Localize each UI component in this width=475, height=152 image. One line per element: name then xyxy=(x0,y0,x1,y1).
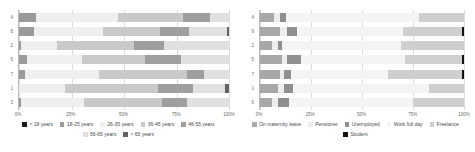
legend-swatch-icon xyxy=(123,132,128,137)
bar-segment xyxy=(19,55,27,64)
bar-segment xyxy=(162,98,187,107)
bar-segment xyxy=(158,84,194,93)
y-axis-tick-label: 4 xyxy=(0,13,16,22)
x-axis-tick-label: 50% xyxy=(119,110,128,119)
bar-segment xyxy=(164,41,229,50)
legend-swatch-icon xyxy=(430,122,435,127)
stacked-bar-row xyxy=(260,84,464,93)
x-axis-tick-label: 75% xyxy=(408,110,417,119)
legend-item[interactable]: Student xyxy=(343,130,367,139)
bar-segment xyxy=(403,27,462,36)
legend-label: Work full day xyxy=(394,120,423,129)
legend-label: 18-25 years xyxy=(67,120,93,129)
y-axis-tick-label: 8 xyxy=(0,27,16,36)
x-axis-right: 0%25%50%75%100% xyxy=(259,110,464,119)
bar-segment xyxy=(204,70,229,79)
legend-label: Pensioner xyxy=(315,120,338,129)
legend-item[interactable]: < 18 years xyxy=(22,120,53,129)
legend-item[interactable]: Freelance xyxy=(430,120,459,129)
bar-segment xyxy=(187,98,229,107)
bar-segment xyxy=(225,84,229,93)
y-axis-tick-label: 2 xyxy=(0,41,16,50)
bar-segment xyxy=(301,55,405,64)
y-axis-tick-label: 6 xyxy=(0,55,16,64)
legend-swatch-icon xyxy=(22,122,27,127)
bar-segment xyxy=(210,13,229,22)
legend-label: 36-45 years xyxy=(148,120,174,129)
legend-item[interactable]: Unemployed xyxy=(345,120,380,129)
y-axis-tick-label: 7 xyxy=(237,70,257,79)
bar-segment xyxy=(401,41,464,50)
legend-item[interactable]: On maternity leave xyxy=(252,120,301,129)
bar-segment xyxy=(160,27,189,36)
bar-segment xyxy=(181,55,229,64)
bar-segment xyxy=(36,13,118,22)
gridline xyxy=(229,10,230,110)
bar-segment xyxy=(193,84,225,93)
chart-panel-age-groups: 4 8 2 6 7 1 3 0%25%50%75%100% < 18 years… xyxy=(0,0,237,152)
bar-segment xyxy=(134,41,163,50)
y-axis-labels-right: 4 9 2 5 7 1 6 xyxy=(237,10,257,110)
bar-segment xyxy=(27,55,82,64)
legend-label: 46-55 years xyxy=(188,120,214,129)
stacked-bar-row xyxy=(19,27,229,36)
legend-label: Unemployed xyxy=(352,120,380,129)
legend-item[interactable]: 36-45 years xyxy=(141,120,174,129)
stacked-bar-row xyxy=(19,84,229,93)
bar-segment xyxy=(429,84,464,93)
bar-segment xyxy=(462,70,464,79)
bar-segment xyxy=(260,84,278,93)
bar-segment xyxy=(19,13,36,22)
legend-swatch-icon xyxy=(387,122,392,127)
bar-segment xyxy=(286,13,419,22)
stacked-bar-row xyxy=(260,41,464,50)
bar-segment xyxy=(21,98,84,107)
bar-rows-right xyxy=(260,10,464,110)
bar-segment xyxy=(462,27,464,36)
bar-rows-left xyxy=(19,10,229,110)
bar-segment xyxy=(260,27,280,36)
bar-segment xyxy=(183,13,210,22)
y-axis-tick-label: 2 xyxy=(237,41,257,50)
plot-area-left xyxy=(18,10,229,110)
legend-item[interactable]: > 65 years xyxy=(123,130,154,139)
legend-item[interactable]: 56-65 years xyxy=(83,130,116,139)
bar-segment xyxy=(103,27,160,36)
bar-segment xyxy=(118,13,183,22)
legend-item[interactable]: 18-25 years xyxy=(60,120,93,129)
bar-segment xyxy=(413,98,464,107)
legend-item[interactable]: Pensioner xyxy=(308,120,338,129)
stacked-bar-row xyxy=(260,13,464,22)
legend-left: < 18 years18-25 years26-35 years36-45 ye… xyxy=(8,120,229,139)
bar-segment xyxy=(227,27,229,36)
legend-swatch-icon xyxy=(181,122,186,127)
bar-segment xyxy=(260,55,282,64)
bar-segment xyxy=(260,70,280,79)
legend-label: 56-65 years xyxy=(90,130,116,139)
bar-segment xyxy=(260,41,272,50)
bar-segment xyxy=(84,98,162,107)
legend-swatch-icon xyxy=(83,132,88,137)
y-axis-tick-label: 7 xyxy=(0,70,16,79)
legend-swatch-icon xyxy=(60,122,65,127)
legend-item[interactable]: 26-35 years xyxy=(100,120,133,129)
legend-item[interactable]: 46-55 years xyxy=(181,120,214,129)
bar-segment xyxy=(34,27,103,36)
bar-segment xyxy=(284,84,292,93)
bar-segment xyxy=(99,70,187,79)
bar-segment xyxy=(65,84,157,93)
stacked-bar-row xyxy=(260,27,464,36)
bar-segment xyxy=(145,55,181,64)
bar-segment xyxy=(278,98,288,107)
bar-segment xyxy=(289,98,413,107)
stacked-bar-row xyxy=(19,55,229,64)
legend-swatch-icon xyxy=(308,122,313,127)
legend-item[interactable]: Work full day xyxy=(387,120,423,129)
bar-segment xyxy=(57,41,135,50)
y-axis-tick-label: 4 xyxy=(237,13,257,22)
bar-segment xyxy=(189,27,227,36)
stacked-bar-row xyxy=(19,41,229,50)
bar-segment xyxy=(21,41,57,50)
bar-segment xyxy=(287,27,297,36)
bar-segment xyxy=(82,55,145,64)
